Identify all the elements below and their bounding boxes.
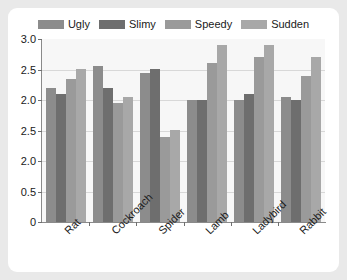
legend-entry-ugly[interactable]: Ugly <box>38 19 90 30</box>
bar[interactable] <box>113 103 123 222</box>
bar-group <box>93 39 133 222</box>
bar[interactable] <box>207 63 217 222</box>
legend-label-sudden: Sudden <box>271 19 309 30</box>
bar[interactable] <box>46 88 56 222</box>
bar[interactable] <box>160 137 170 222</box>
bar[interactable] <box>187 100 197 222</box>
bar[interactable] <box>103 88 113 222</box>
x-tick-mark <box>136 222 137 226</box>
legend-entry-speedy[interactable]: Speedy <box>165 19 232 30</box>
bar[interactable] <box>217 45 227 222</box>
y-tick-mark <box>38 222 42 223</box>
bar[interactable] <box>123 97 133 222</box>
x-tick-mark <box>231 222 232 226</box>
bar[interactable] <box>76 69 86 222</box>
bar[interactable] <box>244 94 254 222</box>
bars-layer <box>42 39 325 222</box>
x-tick-mark <box>184 222 185 226</box>
y-tick-label: 2.5 <box>21 64 36 76</box>
y-tick-label: 2.0 <box>21 155 36 167</box>
bar-group <box>187 39 227 222</box>
bar[interactable] <box>197 100 207 222</box>
bar-group <box>234 39 274 222</box>
y-tick-label: 0 <box>30 216 36 228</box>
legend-swatch-sudden <box>241 20 267 29</box>
bar[interactable] <box>264 45 274 222</box>
legend-label-slimy: Slimy <box>129 19 156 30</box>
plot-area: 3.02.52.02.52.00.50 RatCockroachSpiderLa… <box>42 39 325 222</box>
bar[interactable] <box>254 57 264 222</box>
legend-swatch-slimy <box>99 20 125 29</box>
chart-legend: Ugly Slimy Speedy Sudden <box>8 14 339 34</box>
bar[interactable] <box>291 100 301 222</box>
y-tick-label: 3.0 <box>21 33 36 45</box>
bar-group <box>281 39 321 222</box>
bar[interactable] <box>311 57 321 222</box>
y-tick-label: 2.5 <box>21 125 36 137</box>
bar[interactable] <box>234 100 244 222</box>
legend-entry-sudden[interactable]: Sudden <box>241 19 309 30</box>
bar[interactable] <box>66 79 76 222</box>
y-tick-label: 0.5 <box>21 186 36 198</box>
bar[interactable] <box>56 94 66 222</box>
bar-group <box>46 39 86 222</box>
bar[interactable] <box>301 76 311 222</box>
legend-swatch-speedy <box>165 20 191 29</box>
legend-entry-slimy[interactable]: Slimy <box>99 19 156 30</box>
legend-label-speedy: Speedy <box>195 19 232 30</box>
chart-card: Ugly Slimy Speedy Sudden 3.02.52.02.52.0… <box>8 8 339 272</box>
x-tick-mark <box>89 222 90 226</box>
y-tick-label: 2.0 <box>21 94 36 106</box>
legend-swatch-ugly <box>38 20 64 29</box>
x-tick-mark <box>278 222 279 226</box>
bar[interactable] <box>93 66 103 222</box>
legend-label-ugly: Ugly <box>68 19 90 30</box>
